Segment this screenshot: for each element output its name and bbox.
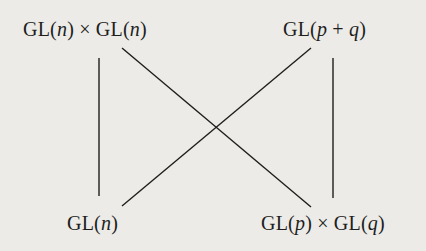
node-gl-n: GL(n) [67, 211, 118, 235]
node-gl-p-times-gl-q: GL(p) × GL(q) [261, 211, 385, 235]
node-text: ) [140, 18, 147, 40]
node-gl-n-times-gl-n: GL(n) × GL(n) [23, 17, 147, 41]
node-variable: q [349, 18, 359, 40]
node-text: ) [111, 212, 118, 234]
node-text: GL( [67, 212, 101, 234]
see-saw-diagram: GL(n) × GL(n) GL(p + q) GL(n) GL(p) × GL… [0, 0, 426, 251]
node-text: ) × GL( [67, 18, 130, 40]
node-variable: n [101, 212, 111, 234]
node-text: ) [378, 212, 385, 234]
node-variable: n [130, 18, 140, 40]
node-text: GL( [283, 18, 317, 40]
node-text: ) [359, 18, 366, 40]
node-gl-p-plus-q: GL(p + q) [283, 17, 366, 41]
node-text: ) × GL( [305, 212, 368, 234]
node-text: + [327, 18, 349, 40]
node-variable: q [368, 212, 378, 234]
node-variable: p [295, 212, 305, 234]
node-variable: p [317, 18, 327, 40]
node-variable: n [57, 18, 67, 40]
node-text: GL( [261, 212, 295, 234]
node-text: GL( [23, 18, 57, 40]
